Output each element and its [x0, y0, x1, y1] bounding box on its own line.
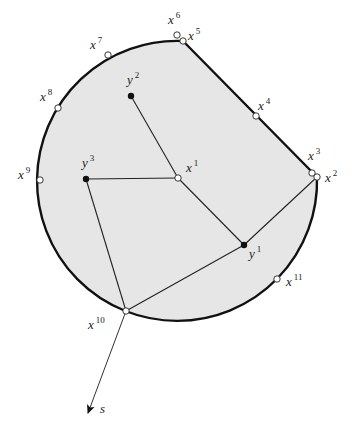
point-x7-marker — [105, 52, 111, 58]
point-y3-marker — [83, 176, 89, 182]
convex-region-diagram: s x1x2x3x4x5x6x7x8x9x10x11y1y2y3 — [0, 0, 352, 428]
point-x2-label: x2 — [324, 168, 337, 185]
point-y1-marker — [241, 242, 247, 248]
point-x6-label: x6 — [167, 10, 181, 27]
point-x6-marker — [174, 32, 180, 38]
point-x8-marker — [55, 105, 61, 111]
point-x7-label: x7 — [89, 35, 103, 52]
point-x10-label: x10 — [87, 315, 105, 332]
point-x5-label: x5 — [187, 26, 201, 43]
point-y2-marker — [128, 93, 134, 99]
point-x4-label: x4 — [257, 96, 271, 113]
point-x11-marker — [274, 276, 280, 282]
point-x3-marker — [309, 170, 315, 176]
point-x9-marker — [37, 177, 43, 183]
point-x11-label: x11 — [285, 272, 302, 289]
point-x5-marker — [180, 38, 186, 44]
point-x1-marker — [175, 175, 181, 181]
point-x9-label: x9 — [17, 165, 31, 182]
point-x3-label: x3 — [307, 146, 321, 163]
arrow-label-s: s — [100, 401, 105, 416]
point-x10-marker — [123, 308, 129, 314]
point-x8-label: x8 — [39, 87, 53, 104]
point-x4-marker — [253, 113, 259, 119]
